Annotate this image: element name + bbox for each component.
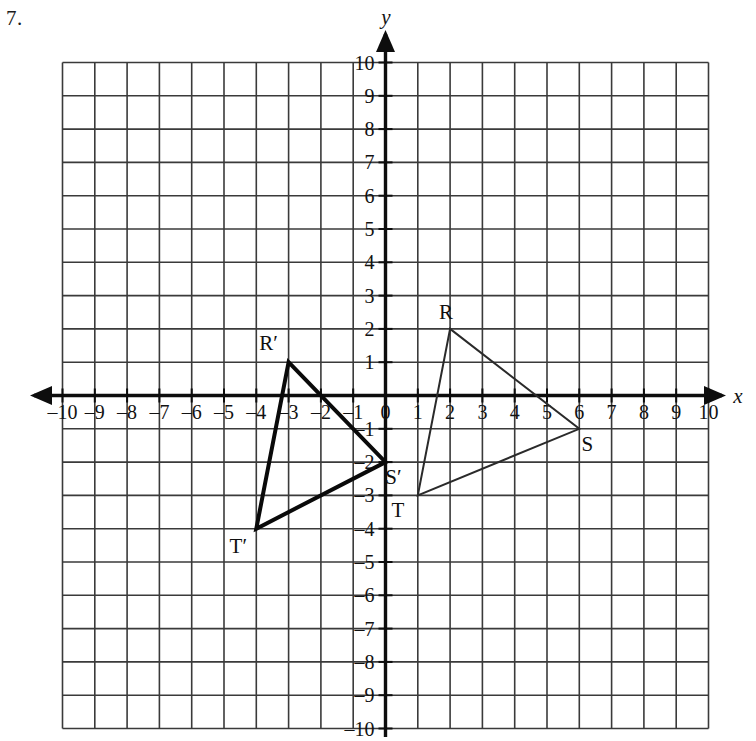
y-axis-name: y (379, 5, 391, 29)
x-axis-name: x (732, 384, 743, 408)
y-tick-label: 10 (355, 52, 375, 74)
x-tick-label: –4 (245, 401, 266, 423)
x-tick-label: –5 (213, 401, 234, 423)
y-tick-label: –4 (354, 518, 375, 540)
y-tick-label: 3 (365, 285, 375, 307)
vertex-label: R (439, 300, 453, 324)
x-tick-label: 6 (574, 401, 584, 423)
x-tick-label: 8 (639, 401, 649, 423)
y-tick-label: 2 (365, 318, 375, 340)
y-tick-label: –3 (354, 484, 375, 506)
x-axis-tick-labels: –10–9–8–7–6–5–4–3–2–1012345678910 (47, 401, 719, 423)
x-tick-label: 9 (671, 401, 681, 423)
coordinate-plane: –10–9–8–7–6–5–4–3–2–1012345678910 109876… (0, 0, 756, 741)
x-tick-label: 10 (699, 401, 719, 423)
y-tick-label: 4 (365, 251, 375, 273)
y-tick-label: 1 (365, 351, 375, 373)
x-tick-label: –7 (148, 401, 169, 423)
vertex-label: T′ (230, 534, 247, 558)
x-tick-label: 3 (477, 401, 487, 423)
y-tick-label: –1 (354, 418, 375, 440)
x-tick-label: 4 (510, 401, 520, 423)
x-tick-label: –9 (84, 401, 105, 423)
axis-lines (30, 30, 726, 737)
x-tick-label: –10 (47, 401, 78, 423)
y-tick-label: 8 (365, 118, 375, 140)
vertex-label: T (391, 498, 404, 522)
y-tick-label: –9 (354, 684, 375, 706)
y-axis-up-arrow (376, 30, 395, 52)
x-tick-label: –6 (181, 401, 202, 423)
vertex-label: S (581, 432, 593, 456)
y-tick-label: –7 (354, 618, 375, 640)
y-tick-label: –5 (354, 551, 375, 573)
y-tick-label: 9 (365, 85, 375, 107)
vertex-label: S′ (385, 465, 401, 489)
y-tick-label: –10 (344, 718, 375, 740)
y-tick-label: 7 (365, 151, 375, 173)
x-tick-label: 2 (445, 401, 455, 423)
y-tick-label: –6 (354, 584, 375, 606)
x-tick-label: 0 (381, 401, 391, 423)
vertex-label: R′ (259, 331, 278, 355)
triangle-outline (418, 329, 580, 496)
y-tick-label: –8 (354, 651, 375, 673)
x-tick-label: –8 (116, 401, 137, 423)
x-tick-label: 1 (413, 401, 423, 423)
x-tick-label: 7 (607, 401, 617, 423)
y-tick-label: 5 (365, 218, 375, 240)
worksheet-page: 7. –10–9–8–7–6–5–4–3–2–1012345678910 109… (0, 0, 756, 741)
y-tick-label: 6 (365, 185, 375, 207)
